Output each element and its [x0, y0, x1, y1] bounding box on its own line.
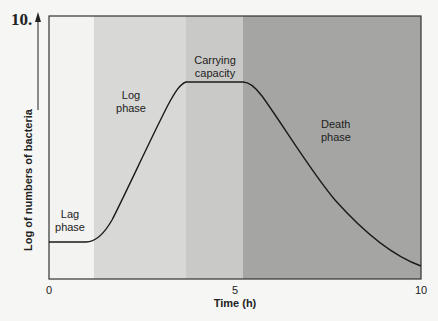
annotation-log-phase: Log phase: [116, 89, 146, 115]
annotation-cap-line2: capacity: [194, 67, 236, 80]
annotation-death-line1: Death: [321, 118, 351, 131]
annotation-lag-line2: phase: [55, 221, 85, 234]
growth-curve-chart: [0, 0, 438, 321]
x-tick-0: 0: [46, 284, 52, 296]
annotation-lag-line1: Lag: [55, 208, 85, 221]
x-tick-5: 5: [232, 284, 238, 296]
region-lag-phase: [49, 16, 94, 279]
x-tick-10: 10: [415, 284, 427, 296]
annotation-lag-phase: Lag phase: [55, 208, 85, 234]
region-log-phase: [94, 16, 186, 279]
annotation-carrying-capacity: Carrying capacity: [194, 54, 236, 80]
annotation-log-line2: phase: [116, 102, 146, 115]
annotation-log-line1: Log: [116, 89, 146, 102]
x-axis-label: Time (h): [214, 297, 257, 309]
annotation-death-phase: Death phase: [321, 118, 351, 144]
annotation-cap-line1: Carrying: [194, 54, 236, 67]
y-axis-arrowhead-icon: [35, 12, 41, 22]
region-death-phase: [243, 16, 421, 279]
y-axis-label: Log of numbers of bacteria: [22, 109, 34, 251]
annotation-death-line2: phase: [321, 131, 351, 144]
